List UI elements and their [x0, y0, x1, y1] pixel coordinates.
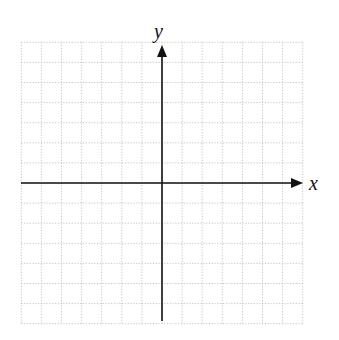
x-axis-label: x	[308, 172, 318, 194]
x-axis-arrow-icon	[291, 178, 303, 188]
y-axis-arrow-icon	[157, 45, 167, 57]
y-axis-label: y	[152, 20, 163, 43]
coordinate-plane: x y	[0, 0, 339, 340]
